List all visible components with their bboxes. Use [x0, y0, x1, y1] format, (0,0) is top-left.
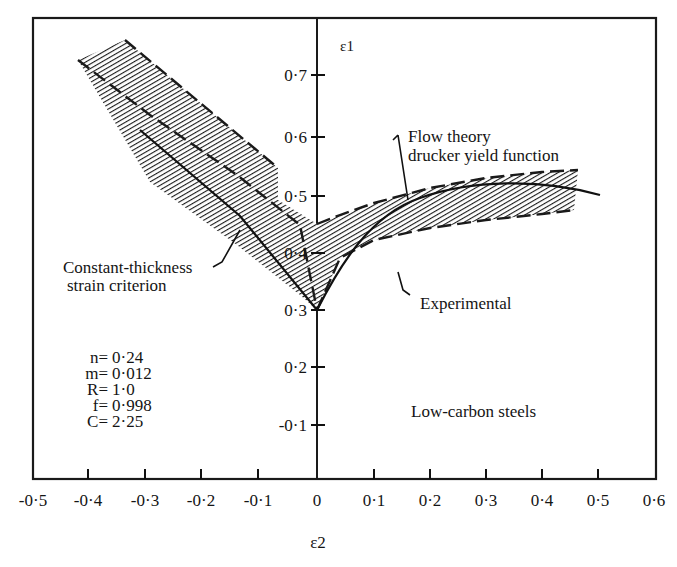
y-axis-label: ε1 — [340, 38, 354, 54]
svg-text:-0·1: -0·1 — [279, 416, 307, 435]
svg-text:0: 0 — [313, 491, 322, 510]
x-tick-labels: -0·5 -0·4 -0·3 -0·2 -0·1 0 0·1 0·2 0·3 0… — [19, 491, 666, 510]
svg-text:0·2: 0·2 — [284, 358, 307, 377]
svg-text:C=: C= — [87, 412, 108, 431]
constant-thickness-annotation: Constant-thickness strain criterion — [63, 258, 192, 295]
svg-text:-0·3: -0·3 — [131, 491, 159, 510]
svg-text:Constant-thickness: Constant-thickness — [63, 258, 192, 277]
svg-text:drucker yield function: drucker yield function — [408, 146, 560, 165]
experimental-annotation: Experimental — [420, 294, 512, 313]
svg-text:0·3: 0·3 — [475, 491, 498, 510]
svg-text:0·4: 0·4 — [284, 244, 307, 263]
svg-text:0·4: 0·4 — [531, 491, 554, 510]
svg-text:0·6: 0·6 — [284, 128, 307, 147]
svg-text:-0·5: -0·5 — [19, 491, 47, 510]
svg-text:0·6: 0·6 — [643, 491, 666, 510]
forming-limit-chart: 0·7 0·6 0·5 0·4 0·3 0·2 -0·1 -0·5 -0·4 -… — [0, 0, 677, 567]
svg-text:2·25: 2·25 — [112, 412, 143, 431]
flow-theory-leader — [393, 135, 408, 200]
x-ticks — [88, 469, 598, 479]
flow-theory-annotation: Flow theory drucker yield function — [408, 127, 560, 165]
material-annotation: Low-carbon steels — [411, 402, 536, 421]
svg-text:0·2: 0·2 — [419, 491, 442, 510]
svg-text:-0·4: -0·4 — [74, 491, 103, 510]
svg-text:0·7: 0·7 — [284, 66, 307, 85]
svg-text:0·1: 0·1 — [363, 491, 386, 510]
svg-text:strain criterion: strain criterion — [67, 276, 167, 295]
svg-text:0·3: 0·3 — [284, 301, 307, 320]
experimental-leader — [398, 272, 410, 295]
parameter-block: n= m= R= f= C= 0·24 0·012 1·0 0·998 2·25 — [85, 348, 151, 431]
svg-text:-0·1: -0·1 — [244, 491, 272, 510]
svg-text:-0·2: -0·2 — [187, 491, 215, 510]
x-axis-label: ε2 — [310, 533, 326, 552]
svg-text:0·5: 0·5 — [284, 187, 307, 206]
svg-text:Flow theory: Flow theory — [408, 127, 491, 146]
svg-text:0·5: 0·5 — [587, 491, 610, 510]
